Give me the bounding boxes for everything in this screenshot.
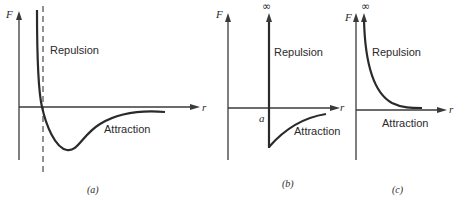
panel-c-attraction-label: Attraction — [382, 117, 428, 129]
panel-b-x-label: r — [340, 101, 345, 113]
panel-c-infinity-label: ∞ — [361, 0, 370, 13]
panel-b-x-arrow-icon — [330, 105, 340, 111]
panel-c-x-label: r — [449, 103, 454, 115]
force-diagram: F r Repulsion Attraction (a) F r ∞ a Rep… — [0, 0, 457, 198]
panel-b: F r ∞ a Repulsion Attraction (b) — [215, 0, 345, 190]
panel-a-x-label: r — [202, 101, 207, 113]
panel-b-caption: (b) — [282, 178, 294, 190]
panel-c-caption: (c) — [392, 184, 404, 196]
panel-b-infinity-label: ∞ — [262, 0, 271, 13]
panel-a-y-arrow-icon — [16, 11, 22, 20]
panel-a-y-label: F — [5, 8, 13, 20]
panel-c: F r ∞ Repulsion Attraction (c) — [344, 0, 454, 196]
panel-a-repulsion-label: Repulsion — [50, 44, 99, 56]
panel-c-x-arrow-icon — [437, 107, 447, 113]
panel-c-repulsion-label: Repulsion — [372, 46, 421, 58]
panel-a-caption: (a) — [87, 184, 99, 196]
panel-b-y-arrow-icon — [225, 13, 231, 22]
panel-c-repulsion-curve — [364, 20, 422, 108]
panel-b-attraction-label: Attraction — [294, 125, 340, 137]
panel-a-x-arrow-icon — [190, 104, 200, 110]
panel-c-y-arrow-icon — [353, 13, 359, 22]
panel-b-wall-arrow-icon — [266, 13, 272, 22]
panel-b-y-label: F — [215, 8, 223, 20]
panel-c-y-label: F — [344, 11, 352, 23]
panel-a-attraction-label: Attraction — [104, 123, 150, 135]
panel-b-repulsion-label: Repulsion — [274, 46, 323, 58]
panel-b-origin-label: a — [259, 112, 265, 124]
panel-a: F r Repulsion Attraction (a) — [5, 6, 207, 196]
